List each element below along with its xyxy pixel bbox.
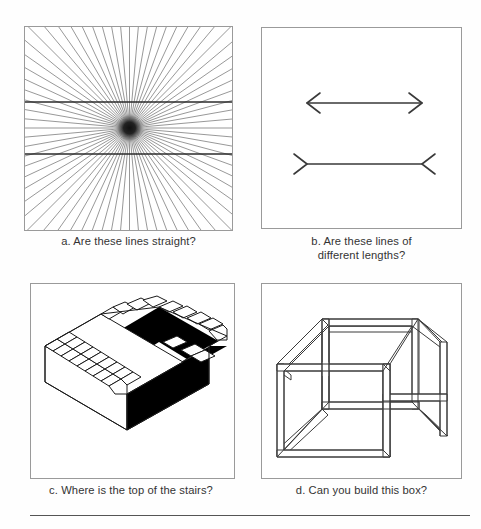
cube-beam-front-top (277, 364, 390, 371)
impossible-cube-drawing (262, 284, 461, 478)
panel-d-canvas (262, 284, 461, 478)
figure-page: a. Are these lines straight? (0, 0, 481, 529)
panel-c-caption-line1: c. Where is the top of the stairs? (49, 484, 213, 496)
panel-a-canvas (25, 27, 232, 230)
cube-beam-right-far-vertical (440, 342, 447, 436)
cube-beam-back-bottom (322, 402, 419, 409)
cube-beam-back-top-a (322, 326, 418, 332)
penrose-stairs-drawing (31, 284, 234, 478)
panel-d-caption: d. Can you build this box? (256, 483, 467, 497)
panel-c-caption: c. Where is the top of the stairs? (14, 483, 248, 497)
panel-b-caption-line2: different lengths? (256, 248, 467, 262)
panel-d-caption-line1: d. Can you build this box? (296, 484, 427, 496)
cube-beam-center-vertical-shade (383, 364, 390, 457)
panel-b-canvas (262, 28, 461, 228)
panel-d-impossible-cube (261, 283, 462, 479)
panel-a-caption-line1: a. Are these lines straight? (61, 235, 196, 247)
panel-b-caption-line1: b. Are these lines of (256, 234, 467, 248)
hering-illusion-drawing (25, 27, 232, 230)
muller-lyer-drawing (262, 28, 461, 228)
panel-c-penrose-stairs (30, 283, 235, 479)
panel-a-caption: a. Are these lines straight? (14, 234, 243, 248)
cube-beam-back-top (322, 319, 418, 326)
cube-beam-right-mid-horizontal (383, 394, 447, 401)
hering-center-blob (113, 111, 147, 145)
panel-c-canvas (31, 284, 234, 478)
footer-horizontal-rule (30, 515, 470, 516)
panel-b-caption: b. Are these lines of different lengths? (256, 234, 467, 262)
cube-beam-front-bottom (277, 450, 390, 457)
panel-b-muller-lyer-illusion (261, 27, 462, 229)
cube-beam-front-left-vertical (277, 364, 284, 456)
panel-a-hering-illusion (24, 26, 233, 231)
